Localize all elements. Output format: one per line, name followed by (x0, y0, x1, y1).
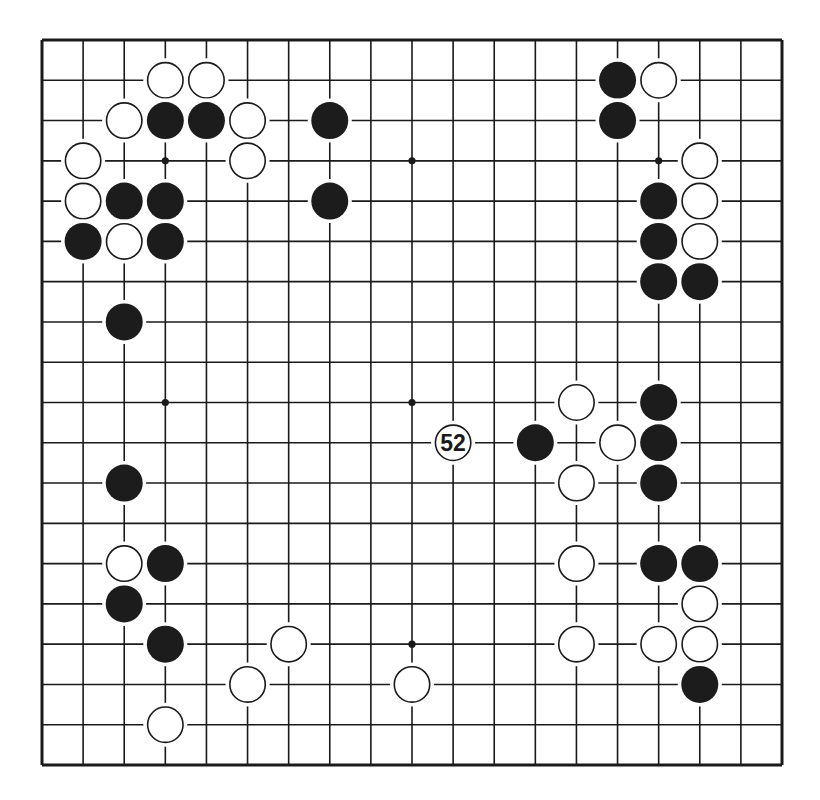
black-stone (102, 461, 146, 505)
black-stone (143, 219, 187, 263)
white-stone (637, 58, 681, 102)
white-stone (554, 622, 598, 666)
white-stone (226, 139, 270, 183)
go-board: 52 (0, 0, 820, 800)
black-stone (513, 421, 557, 465)
black-stone (637, 381, 681, 425)
star-point-icon (408, 399, 415, 406)
black-stone (678, 260, 722, 304)
white-stone (61, 139, 105, 183)
black-stone (678, 542, 722, 586)
white-stone: 52 (431, 421, 475, 465)
white-stone (554, 542, 598, 586)
white-stone (390, 662, 434, 706)
white-stone (102, 542, 146, 586)
black-stone (637, 260, 681, 304)
white-stone (554, 381, 598, 425)
black-stone (102, 179, 146, 223)
black-stone (637, 421, 681, 465)
black-stone (143, 542, 187, 586)
black-stone (143, 179, 187, 223)
white-stone (637, 622, 681, 666)
black-stone (102, 582, 146, 626)
white-stone (143, 58, 187, 102)
move-number-label: 52 (440, 430, 466, 456)
white-stone (102, 219, 146, 263)
white-stone (596, 421, 640, 465)
star-point-icon (162, 157, 169, 164)
star-point-icon (655, 157, 662, 164)
black-stone (637, 542, 681, 586)
black-stone (308, 99, 352, 143)
white-stone (143, 703, 187, 747)
black-stone (143, 622, 187, 666)
white-stone (267, 622, 311, 666)
black-stone (184, 99, 228, 143)
star-point-icon (408, 157, 415, 164)
black-stone (143, 99, 187, 143)
black-stone (596, 58, 640, 102)
star-point-icon (162, 399, 169, 406)
white-stone (184, 58, 228, 102)
black-stone (102, 300, 146, 344)
black-stone (637, 179, 681, 223)
white-stone (554, 461, 598, 505)
white-stone (226, 99, 270, 143)
black-stone (61, 219, 105, 263)
star-point-icon (408, 641, 415, 648)
white-stone (61, 179, 105, 223)
black-stone (308, 179, 352, 223)
white-stone (226, 662, 270, 706)
black-stone (678, 662, 722, 706)
white-stone (678, 219, 722, 263)
white-stone (678, 622, 722, 666)
black-stone (637, 461, 681, 505)
black-stone (637, 219, 681, 263)
black-stone (596, 99, 640, 143)
white-stone (102, 99, 146, 143)
white-stone (678, 582, 722, 626)
white-stone (678, 179, 722, 223)
white-stone (678, 139, 722, 183)
